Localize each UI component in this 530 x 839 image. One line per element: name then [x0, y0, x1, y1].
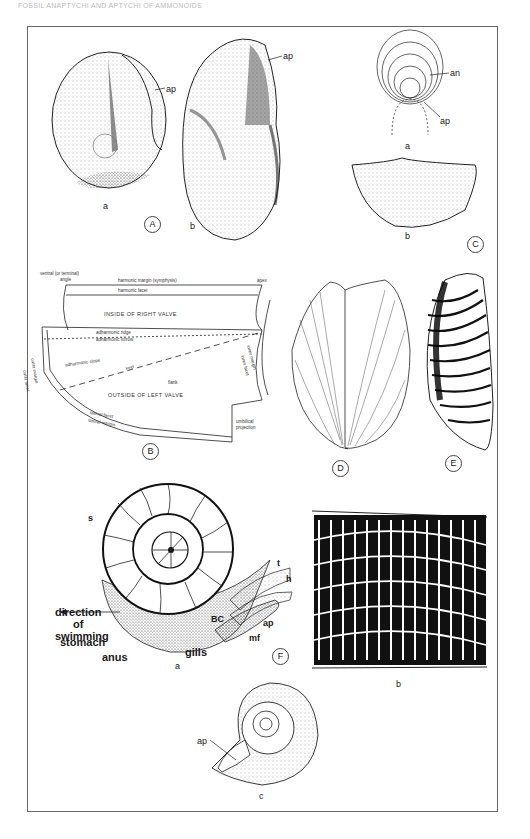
fig-f-c-ammonite-with-aptychus: [210, 683, 318, 785]
fig-a-a-ammonite: [52, 52, 166, 188]
sublabel-a-a: a: [103, 202, 108, 211]
label-f-anus: anus: [102, 651, 128, 663]
fig-c-b-aptychus-valve: [352, 158, 476, 227]
panel-label-d: D: [332, 460, 349, 477]
label-f-hood: h: [286, 575, 292, 584]
b-projection: projection: [236, 426, 256, 431]
sublabel-c-a: a: [405, 142, 410, 151]
sublabel-f-b: b: [396, 680, 401, 689]
panel-label-f: F: [272, 648, 289, 665]
b-umbilical: umbilical: [236, 420, 254, 425]
sublabel-f-a: a: [175, 662, 180, 671]
label-a-b-aptychus: ap: [283, 52, 293, 61]
b-flank: flank: [168, 381, 178, 386]
b-adharmonic-ridge: adharmonic ridge: [96, 331, 131, 336]
label-c-aptychus: ap: [440, 117, 450, 126]
label-f-shell: s: [88, 514, 93, 523]
b-ventral-angle-2: angle: [60, 278, 71, 283]
fig-d-aptychus-pair: [292, 280, 410, 449]
b-apex: apex: [257, 279, 267, 284]
fig-c-a-anaptychus: [377, 30, 443, 135]
label-f-c-aptychus: ap: [197, 737, 207, 746]
b-inside-right-valve: INSIDE OF RIGHT VALVE: [104, 312, 177, 318]
b-adharmonic-furrow: adharmonic furrow: [96, 338, 133, 343]
label-f-buccal-cavity: BC: [211, 615, 224, 624]
label-f-tentacles: t: [277, 559, 280, 568]
b-ventral-angle: ventral (or terminal): [40, 272, 79, 277]
label-c-anaptychus: an: [450, 69, 460, 78]
label-f-gills: gills: [185, 646, 207, 658]
b-harmonic-margin: harmonic margin (symphysis): [118, 279, 177, 284]
b-outside-left-valve: OUTSIDE OF LEFT VALVE: [108, 393, 183, 399]
panel-label-e: E: [445, 455, 462, 472]
plate-drawings: [0, 0, 530, 839]
label-a-a-aptychus: ap: [166, 85, 176, 94]
panel-label-c: C: [467, 236, 484, 253]
fig-f-a-ammonite-reconstruction: [60, 484, 292, 652]
panel-label-a: A: [144, 216, 161, 233]
label-f-mantle-fold: mf: [249, 634, 260, 643]
fig-a-b-ammonite: [183, 39, 280, 240]
sublabel-f-c: c: [259, 792, 264, 801]
sublabel-c-b: b: [405, 232, 410, 241]
label-f-swimming: swimming: [55, 630, 109, 642]
label-f-direction: direction: [55, 606, 101, 618]
label-f-aptychus: ap: [263, 619, 274, 628]
label-f-of: of: [73, 618, 83, 630]
fig-e-aptychus-ribbed: [427, 273, 493, 450]
fig-f-b-aptychus-texture: [312, 511, 487, 668]
sublabel-a-b: b: [190, 222, 195, 231]
panel-label-b: B: [142, 443, 159, 460]
b-harmonic-facet: harmonic facet: [118, 289, 148, 294]
